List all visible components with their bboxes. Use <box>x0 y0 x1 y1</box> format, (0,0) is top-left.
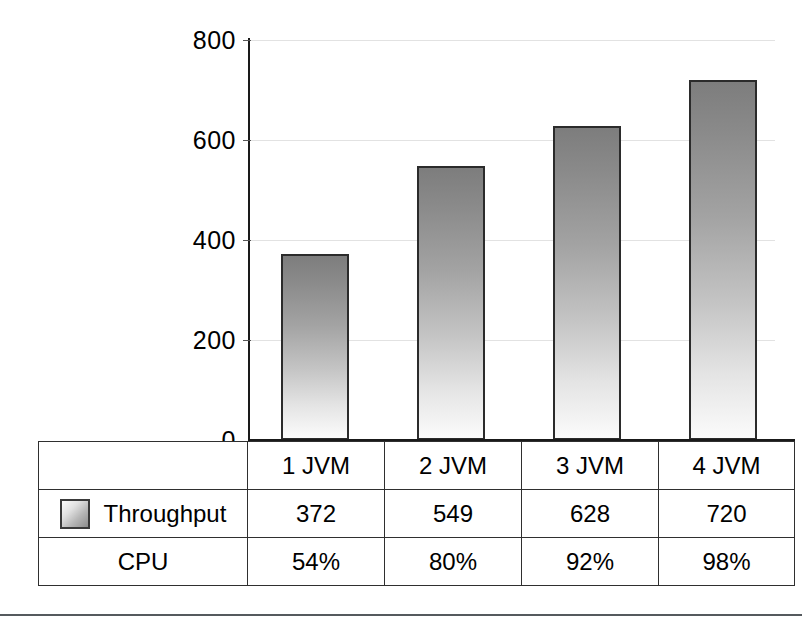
table-row-headers: 1 JVM 2 JVM 3 JVM 4 JVM <box>39 442 795 490</box>
bar-4-jvm <box>689 80 757 440</box>
data-table: 1 JVM 2 JVM 3 JVM 4 JVM Throughput 372 5… <box>38 441 795 585</box>
table-row-throughput: Throughput 372 549 628 720 <box>39 490 795 538</box>
y-axis-label-600: 600 <box>180 128 236 153</box>
throughput-value-4-jvm: 720 <box>659 490 795 538</box>
plot-area <box>250 40 775 440</box>
header-corner-blank <box>39 442 248 490</box>
bar-1-jvm <box>281 254 349 440</box>
column-header-4-jvm: 4 JVM <box>659 442 795 490</box>
y-axis-label-400: 400 <box>180 228 236 253</box>
cpu-value-1-jvm: 54% <box>248 538 385 586</box>
footer-divider <box>0 614 802 616</box>
gridline-800 <box>250 40 775 41</box>
y-tick-mark-600 <box>243 140 251 141</box>
cpu-value-3-jvm: 92% <box>522 538 659 586</box>
cpu-value-4-jvm: 98% <box>659 538 795 586</box>
cpu-value-2-jvm: 80% <box>385 538 522 586</box>
column-header-2-jvm: 2 JVM <box>385 442 522 490</box>
table-row-cpu: CPU 54% 80% 92% 98% <box>39 538 795 586</box>
bar-2-jvm <box>417 166 485 441</box>
y-tick-mark-800 <box>243 40 251 41</box>
y-tick-mark-200 <box>243 340 251 341</box>
bar-3-jvm <box>553 126 621 440</box>
throughput-label-cell: Throughput <box>39 490 248 538</box>
y-axis-label-800: 800 <box>180 28 236 53</box>
throughput-label: Throughput <box>104 500 227 528</box>
throughput-value-1-jvm: 372 <box>248 490 385 538</box>
y-tick-mark-400 <box>243 240 251 241</box>
bar-chart-figure: 800 600 400 200 0 1 JVM 2 JVM 3 JVM 4 JV… <box>0 0 802 628</box>
throughput-value-2-jvm: 549 <box>385 490 522 538</box>
cpu-label: CPU <box>39 538 248 586</box>
legend-swatch-icon <box>60 499 90 529</box>
column-header-3-jvm: 3 JVM <box>522 442 659 490</box>
column-header-1-jvm: 1 JVM <box>248 442 385 490</box>
y-axis-label-200: 200 <box>180 328 236 353</box>
throughput-value-3-jvm: 628 <box>522 490 659 538</box>
